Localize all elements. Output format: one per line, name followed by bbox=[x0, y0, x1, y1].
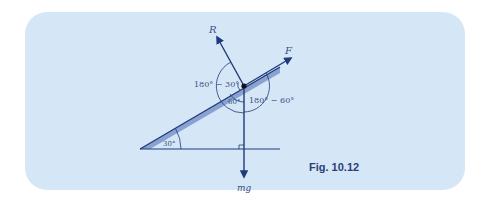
label-180-minus-30: 180° − 30° bbox=[194, 80, 239, 89]
force-F-arrow bbox=[244, 58, 291, 86]
contact-point bbox=[241, 83, 246, 88]
label-180-minus-60: 180° − 60° bbox=[249, 96, 294, 105]
label-R: R bbox=[208, 24, 217, 35]
label-F: F bbox=[284, 45, 293, 56]
label-30: 30° bbox=[163, 140, 175, 148]
inclined-plane-diagram: R F mg 180° − 30° 180° − 60° 60° 30° bbox=[0, 0, 487, 200]
force-R-arrow bbox=[217, 37, 244, 86]
label-mg: mg bbox=[237, 183, 252, 193]
figure-caption: Fig. 10.12 bbox=[309, 161, 359, 173]
label-60: 60° bbox=[228, 98, 240, 106]
